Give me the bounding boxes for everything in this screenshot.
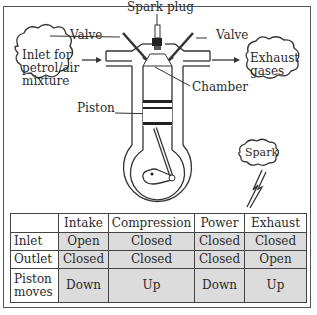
row-label-piston-moves: Piston moves xyxy=(11,269,59,303)
col-compression: Compression xyxy=(109,214,195,233)
cell: Closed xyxy=(59,251,109,269)
spark-plug-icon xyxy=(155,25,160,38)
spark-plug-label: Spark plug xyxy=(127,1,194,14)
cell: Up xyxy=(109,269,195,303)
spark-cloud-text: Spark xyxy=(245,146,278,159)
row-label-line-1: Piston xyxy=(14,273,58,286)
table-row: Outlet Closed Closed Closed Open xyxy=(11,251,307,269)
cell: Closed xyxy=(109,233,195,251)
table-row: Piston moves Down Up Down Up xyxy=(11,269,307,303)
col-intake: Intake xyxy=(59,214,109,233)
row-label-inlet: Inlet xyxy=(11,233,59,251)
cell: Closed xyxy=(109,251,195,269)
cell: Closed xyxy=(245,233,307,251)
table-row: Inlet Open Closed Closed Closed xyxy=(11,233,307,251)
cell: Open xyxy=(245,251,307,269)
exhaust-cloud-text: Exhaust gases xyxy=(250,52,299,78)
piston-label: Piston xyxy=(77,102,115,115)
engine-diagram xyxy=(0,0,317,215)
cell: Open xyxy=(59,233,109,251)
table-corner xyxy=(11,214,59,233)
table-header-row: Intake Compression Power Exhaust xyxy=(11,214,307,233)
valve-left-label: Valve xyxy=(70,29,102,42)
row-label-outlet: Outlet xyxy=(11,251,59,269)
valve-right-label: Valve xyxy=(216,29,248,42)
col-exhaust: Exhaust xyxy=(245,214,307,233)
cell: Closed xyxy=(195,233,245,251)
stroke-table: Intake Compression Power Exhaust Inlet O… xyxy=(10,213,307,303)
inlet-cloud-text: Inlet for petrol/air mixture xyxy=(22,49,79,88)
col-power: Power xyxy=(195,214,245,233)
cell: Down xyxy=(195,269,245,303)
cell: Up xyxy=(245,269,307,303)
inlet-line-3: mixture xyxy=(22,75,79,88)
chamber-label: Chamber xyxy=(192,81,248,94)
cell: Closed xyxy=(195,251,245,269)
exhaust-line-2: gases xyxy=(250,65,299,78)
row-label-line-2: moves xyxy=(14,286,58,299)
cell: Down xyxy=(59,269,109,303)
